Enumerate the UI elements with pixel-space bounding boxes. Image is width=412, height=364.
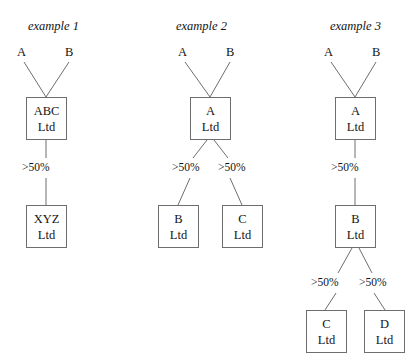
connector-line [214,140,228,158]
shareholder-label-b: B [65,46,73,59]
connector-line [331,62,355,97]
entity-name-line2: Ltd [38,227,55,243]
shareholder-label-a: A [178,46,187,59]
ownership-percent-label: >50% [311,277,339,289]
connector-line [359,248,372,273]
connector-line [185,62,210,97]
entity-box-a-ltd: ALtd [335,97,376,140]
ownership-percent-label: >50% [22,162,50,174]
connector-line [24,62,46,97]
connector-line [338,248,352,273]
entity-name-line1: C [238,211,246,227]
example-title-3: example 3 [330,20,381,33]
shareholder-label-a: A [17,46,26,59]
entity-name-line1: B [174,211,182,227]
entity-name-line2: Ltd [170,227,187,243]
ownership-percent-label: >50% [331,162,359,174]
entity-name-line2: Ltd [202,119,219,135]
entity-name-line2: Ltd [234,227,251,243]
entity-box-xyz-ltd: XYZLtd [26,205,67,248]
connector-line [230,178,242,205]
entity-name-line2: Ltd [376,332,393,348]
entity-box-c-ltd: CLtd [222,205,263,248]
connector-line [178,178,190,205]
ownership-percent-label: >50% [172,162,200,174]
connector-line [374,293,385,310]
entity-name-line2: Ltd [347,227,364,243]
ownership-diagram: example 1ABABCLtdXYZLtd>50%example 2ABAL… [0,0,412,364]
entity-name-line1: A [351,103,360,119]
entity-name-line1: C [322,316,330,332]
ownership-percent-label: >50% [359,277,387,289]
entity-name-line2: Ltd [347,119,364,135]
connector-line [355,62,376,97]
example-title-1: example 1 [28,20,79,33]
connector-line [210,62,230,97]
entity-name-line1: XYZ [34,211,60,227]
entity-box-b-ltd: BLtd [158,205,199,248]
entity-box-a-ltd: ALtd [190,97,231,140]
ownership-percent-label: >50% [218,162,246,174]
entity-name-line1: ABC [34,103,60,119]
entity-name-line1: A [206,103,215,119]
example-title-2: example 2 [176,20,227,33]
connector-lines-layer [0,0,412,364]
entity-box-b-ltd: BLtd [335,205,376,248]
entity-name-line1: D [380,316,389,332]
entity-name-line2: Ltd [38,119,55,135]
entity-box-d-ltd: DLtd [364,310,405,353]
shareholder-label-a: A [324,46,333,59]
shareholder-label-b: B [372,46,380,59]
entity-box-c-ltd: CLtd [306,310,347,353]
entity-box-abc-ltd: ABCLtd [26,97,67,140]
connector-line [46,62,69,97]
connector-line [325,293,336,310]
connector-line [193,140,207,158]
entity-name-line1: B [351,211,359,227]
entity-name-line2: Ltd [318,332,335,348]
shareholder-label-b: B [226,46,234,59]
